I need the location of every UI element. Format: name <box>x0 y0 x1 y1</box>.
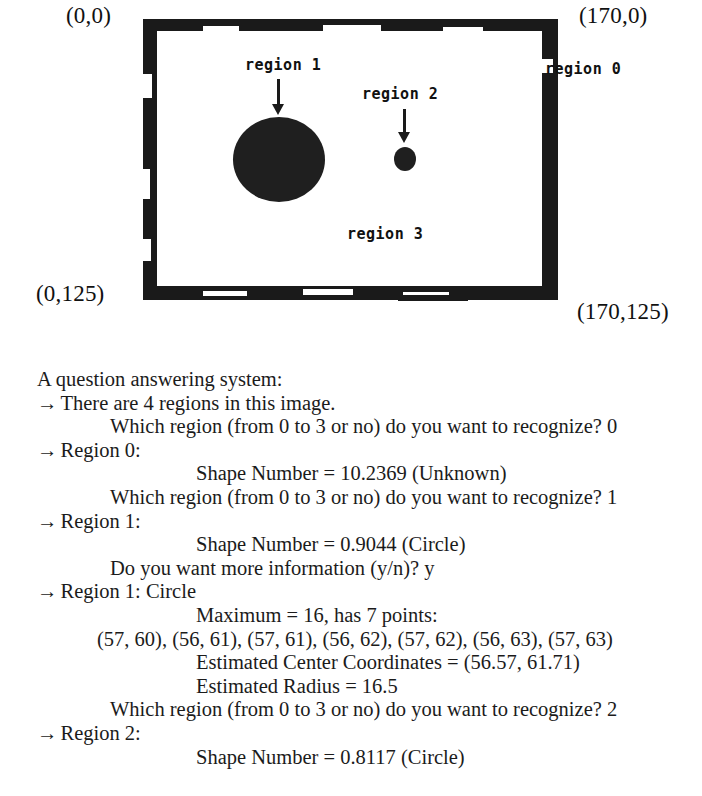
transcript-line-text: Shape Number = 0.9044 (Circle) <box>196 533 465 555</box>
arrow-right-icon: → <box>37 439 58 463</box>
transcript-line-text: Region 1: <box>61 510 141 532</box>
transcript-line: Shape Number = 0.8117 (Circle) <box>0 746 702 770</box>
transcript-line: Do you want more information (y/n)? y <box>0 557 702 581</box>
transcript-line: →Region 1: Circle <box>0 580 702 604</box>
arrow-head <box>398 132 410 143</box>
arrow-right-icon: → <box>37 392 58 416</box>
transcript-line-text: Which region (from 0 to 3 or no) do you … <box>110 415 617 437</box>
transcript-line-list: →There are 4 regions in this image.Which… <box>0 392 702 770</box>
scan-artifact <box>443 27 483 32</box>
corner-coordinate-bottom-left: (0,125) <box>36 281 104 307</box>
scan-artifact <box>144 272 151 280</box>
arrow-right-icon: → <box>37 722 58 746</box>
transcript-line-text: Region 0: <box>61 439 141 461</box>
arrow-right-icon: → <box>37 510 58 534</box>
annotation-label-region-2: region 2 <box>362 85 438 103</box>
transcript-line-text: Region 2: <box>61 722 141 744</box>
scan-artifact <box>398 295 468 301</box>
transcript-line: Estimated Radius = 16.5 <box>0 675 702 699</box>
transcript-line-text: Region 1: Circle <box>61 580 197 602</box>
arrow-head <box>272 104 284 115</box>
transcript-line-text: Which region (from 0 to 3 or no) do you … <box>110 698 617 720</box>
scan-artifact <box>203 291 247 296</box>
transcript-line-text: Estimated Center Coordinates = (56.57, 6… <box>196 651 580 673</box>
transcript-line-text: Which region (from 0 to 3 or no) do you … <box>110 486 617 508</box>
annotation-label-region-0: region 0 <box>545 60 621 78</box>
scan-artifact <box>165 19 177 23</box>
arrow-right-icon: → <box>37 580 58 604</box>
scan-artifact <box>143 169 150 199</box>
region-3-background-shape <box>157 31 542 286</box>
transcript-line-text: There are 4 regions in this image. <box>61 392 336 414</box>
corner-coordinate-top-left: (0,0) <box>66 3 111 29</box>
transcript-line: Shape Number = 0.9044 (Circle) <box>0 533 702 557</box>
annotation-label-region-3: region 3 <box>347 225 423 243</box>
transcript-line-text: Maximum = 16, has 7 points: <box>196 604 438 626</box>
transcript-line: →Region 0: <box>0 439 702 463</box>
transcript-line: Shape Number = 10.2369 (Unknown) <box>0 462 702 486</box>
scan-artifact <box>303 289 353 295</box>
transcript-line: Estimated Center Coordinates = (56.57, 6… <box>0 651 702 675</box>
scan-artifact <box>143 74 152 98</box>
arrow-shaft <box>403 109 406 134</box>
corner-coordinate-top-right: (170,0) <box>579 3 647 29</box>
transcript-line-text: (57, 60), (56, 61), (57, 61), (56, 62), … <box>97 628 613 650</box>
scanned-binary-image <box>143 19 558 300</box>
scan-artifact <box>323 25 381 32</box>
region-2-circle-shape <box>394 147 416 171</box>
transcript-line: →Region 1: <box>0 510 702 534</box>
annotation-label-region-1: region 1 <box>245 56 321 74</box>
transcript-line-text: Estimated Radius = 16.5 <box>196 675 398 697</box>
transcript-line: →There are 4 regions in this image. <box>0 392 702 416</box>
transcript-line: Which region (from 0 to 3 or no) do you … <box>0 415 702 439</box>
transcript-line-text: Do you want more information (y/n)? y <box>110 557 435 579</box>
arrow-down-icon-region-2 <box>397 109 411 143</box>
question-answering-transcript: A question answering system: →There are … <box>0 368 702 769</box>
transcript-line: →Region 2: <box>0 722 702 746</box>
binary-image-figure: (0,0) (170,0) (0,125) (170,125) region 1… <box>0 0 702 345</box>
corner-coordinate-bottom-right: (170,125) <box>577 299 669 325</box>
transcript-line-text: Shape Number = 0.8117 (Circle) <box>196 746 465 768</box>
region-1-circle-shape <box>233 117 325 202</box>
arrow-shaft <box>277 79 280 106</box>
arrow-down-icon-region-1 <box>271 79 285 115</box>
transcript-line: Which region (from 0 to 3 or no) do you … <box>0 698 702 722</box>
transcript-line: Maximum = 16, has 7 points: <box>0 604 702 628</box>
scan-artifact <box>143 239 151 261</box>
transcript-title: A question answering system: <box>0 368 702 392</box>
transcript-line: (57, 60), (56, 61), (57, 61), (56, 62), … <box>0 628 702 652</box>
scan-artifact <box>203 26 239 32</box>
transcript-line-text: Shape Number = 10.2369 (Unknown) <box>196 462 506 484</box>
transcript-line: Which region (from 0 to 3 or no) do you … <box>0 486 702 510</box>
